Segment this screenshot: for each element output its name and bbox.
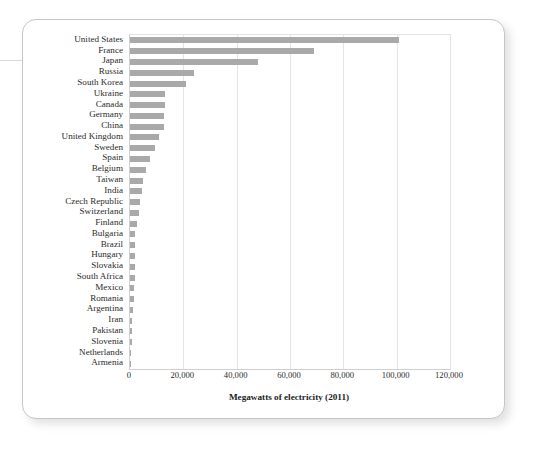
category-label: Ukraine bbox=[23, 88, 126, 99]
category-label: United States bbox=[23, 34, 126, 45]
bar-row bbox=[130, 229, 450, 240]
bar bbox=[130, 350, 131, 356]
bar-row bbox=[130, 121, 450, 132]
category-label: Slovenia bbox=[23, 336, 126, 347]
bar bbox=[130, 285, 134, 291]
bar-row bbox=[130, 132, 450, 143]
bar bbox=[130, 124, 164, 130]
category-label: South Korea bbox=[23, 77, 126, 88]
bar-series bbox=[130, 35, 450, 369]
bar-row bbox=[130, 46, 450, 57]
bar bbox=[130, 210, 139, 216]
category-label: Mexico bbox=[23, 282, 126, 293]
gridline bbox=[450, 35, 451, 369]
bar-row bbox=[130, 283, 450, 294]
x-tick-label: 40,000 bbox=[224, 370, 248, 380]
bar bbox=[130, 296, 134, 302]
x-axis-title: Megawatts of electricity (2011) bbox=[129, 392, 449, 402]
bar-row bbox=[130, 197, 450, 208]
category-label: Switzerland bbox=[23, 207, 126, 218]
x-tick-label: 60,000 bbox=[277, 370, 301, 380]
bar-row bbox=[130, 89, 450, 100]
bar-row bbox=[130, 154, 450, 165]
bar bbox=[130, 328, 132, 334]
bar-row bbox=[130, 67, 450, 78]
category-label: United Kingdom bbox=[23, 131, 126, 142]
category-label: Germany bbox=[23, 109, 126, 120]
bar-row bbox=[130, 186, 450, 197]
category-label: Japan bbox=[23, 56, 126, 67]
category-label: Canada bbox=[23, 99, 126, 110]
bar-row bbox=[130, 143, 450, 154]
bar bbox=[130, 188, 142, 194]
bar-row bbox=[130, 337, 450, 348]
bar bbox=[130, 91, 165, 97]
category-label: South Africa bbox=[23, 271, 126, 282]
bar-row bbox=[130, 78, 450, 89]
bar bbox=[130, 134, 159, 140]
bar-row bbox=[130, 294, 450, 305]
category-label: Czech Republic bbox=[23, 196, 126, 207]
bar bbox=[130, 145, 155, 151]
bar bbox=[130, 70, 194, 76]
bar bbox=[130, 221, 137, 227]
bar-row bbox=[130, 208, 450, 219]
bar bbox=[130, 264, 135, 270]
bar-row bbox=[130, 305, 450, 316]
chart-card: United StatesFranceJapanRussiaSouth Kore… bbox=[22, 19, 505, 419]
category-label: Slovakia bbox=[23, 260, 126, 271]
bar bbox=[130, 339, 132, 345]
bar-row bbox=[130, 57, 450, 68]
category-label: France bbox=[23, 45, 126, 56]
x-tick-label: 100,000 bbox=[382, 370, 410, 380]
bar bbox=[130, 231, 135, 237]
bar bbox=[130, 59, 258, 65]
bar bbox=[130, 307, 133, 313]
x-axis-tick-labels: 020,00040,00060,00080,000100,000120,000 bbox=[129, 370, 449, 384]
category-label: Romania bbox=[23, 293, 126, 304]
bar-row bbox=[130, 218, 450, 229]
category-label: Finland bbox=[23, 217, 126, 228]
bar-row bbox=[130, 326, 450, 337]
bar-row bbox=[130, 251, 450, 262]
category-label: Sweden bbox=[23, 142, 126, 153]
bar bbox=[130, 242, 135, 248]
category-label: Brazil bbox=[23, 239, 126, 250]
bar-row bbox=[130, 110, 450, 121]
bar-row bbox=[130, 164, 450, 175]
bar-chart: United StatesFranceJapanRussiaSouth Kore… bbox=[23, 20, 506, 420]
bar-row bbox=[130, 35, 450, 46]
bar-row bbox=[130, 240, 450, 251]
bar bbox=[130, 275, 135, 281]
category-label: Armenia bbox=[23, 357, 126, 368]
category-label: Taiwan bbox=[23, 174, 126, 185]
bar bbox=[130, 178, 143, 184]
x-tick-label: 0 bbox=[127, 370, 131, 380]
category-label: Bulgaria bbox=[23, 228, 126, 239]
category-label: China bbox=[23, 120, 126, 131]
category-label: Pakistan bbox=[23, 325, 126, 336]
bar bbox=[130, 156, 150, 162]
bar-row bbox=[130, 358, 450, 369]
plot-area bbox=[129, 34, 451, 370]
category-label: Spain bbox=[23, 153, 126, 164]
bar bbox=[130, 253, 135, 259]
bar bbox=[130, 113, 164, 119]
bar-row bbox=[130, 261, 450, 272]
bar bbox=[130, 81, 186, 87]
bar-row bbox=[130, 272, 450, 283]
bar bbox=[130, 48, 314, 54]
category-label: Netherlands bbox=[23, 347, 126, 358]
category-label: Russia bbox=[23, 66, 126, 77]
category-label: Argentina bbox=[23, 304, 126, 315]
bar bbox=[130, 167, 146, 173]
bar bbox=[130, 199, 140, 205]
x-tick-label: 20,000 bbox=[171, 370, 195, 380]
bar-row bbox=[130, 348, 450, 359]
bar bbox=[130, 318, 132, 324]
bar-row bbox=[130, 315, 450, 326]
bar bbox=[130, 102, 165, 108]
x-tick-label: 120,000 bbox=[435, 370, 463, 380]
category-label: Iran bbox=[23, 314, 126, 325]
category-label: India bbox=[23, 185, 126, 196]
